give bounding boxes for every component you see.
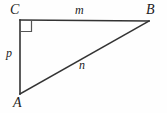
- right-angle-marker-icon: [21, 21, 32, 32]
- side-label-n: n: [79, 59, 85, 71]
- side-label-p: p: [6, 47, 12, 59]
- vertex-label-c: C: [10, 3, 19, 17]
- vertex-label-a: A: [13, 96, 22, 110]
- side-label-m: m: [75, 4, 84, 16]
- geometry-diagram: C B A m p n: [0, 0, 167, 113]
- vertex-label-b: B: [146, 3, 155, 17]
- side-cb-line: [20, 20, 149, 21]
